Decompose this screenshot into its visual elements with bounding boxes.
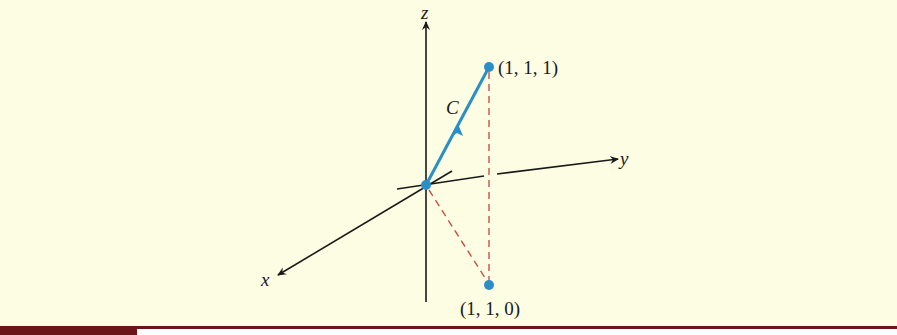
y-axis-label: y bbox=[620, 149, 628, 168]
footer-rule-thin bbox=[137, 326, 897, 329]
3d-axes-diagram bbox=[0, 0, 897, 326]
footer-rule-thick bbox=[0, 326, 137, 335]
y-axis-segment-2 bbox=[497, 159, 618, 174]
point-1-1-0 bbox=[484, 280, 494, 290]
curve-direction-arrow-icon bbox=[451, 124, 463, 137]
point-label-1-1-0: (1, 1, 0) bbox=[460, 299, 520, 318]
origin-point bbox=[421, 180, 431, 190]
point-label-1-1-1: (1, 1, 1) bbox=[498, 58, 558, 77]
z-axis-label: z bbox=[421, 3, 428, 22]
figure-canvas: z y x C (1, 1, 1) (1, 1, 0) bbox=[0, 0, 897, 335]
point-1-1-1 bbox=[484, 62, 494, 72]
curve-label: C bbox=[446, 98, 459, 117]
x-axis-label: x bbox=[261, 270, 269, 289]
dashed-diagonal bbox=[429, 190, 487, 281]
